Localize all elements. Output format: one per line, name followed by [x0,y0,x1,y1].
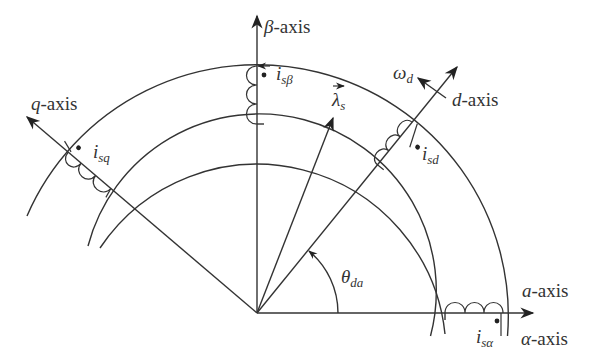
coil-s-beta [247,66,271,124]
theta-da-label: θda [341,266,364,290]
d-axis-label: d-axis [452,89,498,110]
q-axis-line [27,117,257,313]
dq-reference-frame-diagram: β-axis q-axis d-axis a-axis α-axis ωd λs… [0,0,598,364]
airgap-outer-arc [100,164,445,334]
omega-d-arrow [418,78,446,98]
q-axis-label: q-axis [31,93,77,114]
alpha-axis-label: α-axis [521,328,568,349]
theta-da-arc [309,251,338,313]
beta-axis-label: β-axis [263,16,310,37]
lambda-s-label: λs [331,86,345,113]
a-axis-label: a-axis [522,280,568,301]
coil-s-q [54,136,120,197]
lambda-s-vector [257,118,333,313]
i-s-alpha-label: isα [476,326,494,350]
coil-s-alpha [445,303,503,337]
omega-d-label: ωd [393,62,413,86]
rotor-outer-arc [88,114,436,336]
i-sd-label: isd [422,143,439,167]
svg-text:λs: λs [331,89,345,113]
i-sq-label: isq [93,141,110,165]
